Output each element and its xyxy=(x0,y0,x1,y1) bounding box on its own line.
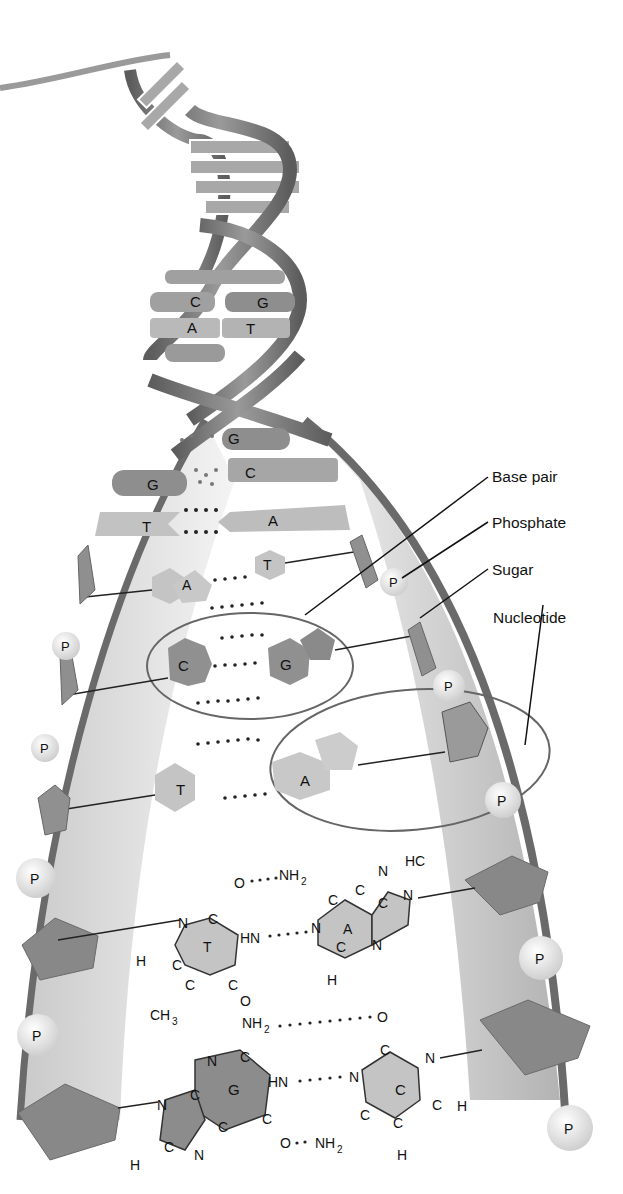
phosphate-symbol: P xyxy=(389,575,398,590)
svg-text:H: H xyxy=(397,1147,407,1163)
ladder-base-a2: A xyxy=(300,772,310,789)
svg-text:C: C xyxy=(172,957,182,973)
label-base-pair: Base pair xyxy=(492,468,557,486)
ladder-base-g: G xyxy=(280,656,292,673)
svg-text:N: N xyxy=(372,937,382,953)
svg-text:C: C xyxy=(355,882,365,898)
svg-text:C: C xyxy=(262,1111,272,1127)
svg-text:C: C xyxy=(228,977,238,993)
svg-text:2: 2 xyxy=(301,876,307,887)
unwind-base-g-right: G xyxy=(228,430,240,447)
svg-text:O: O xyxy=(240,993,251,1009)
svg-text:N: N xyxy=(349,1069,359,1085)
dna-structure-diagram: C G A T G G C T A A T xyxy=(0,0,623,1194)
svg-text:HN: HN xyxy=(268,1074,288,1090)
label-phosphate: Phosphate xyxy=(492,514,566,532)
svg-text:2: 2 xyxy=(337,1144,343,1155)
phosphate-symbol: P xyxy=(32,1028,41,1044)
svg-text:N: N xyxy=(425,1050,435,1066)
svg-text:HC: HC xyxy=(405,853,425,869)
svg-text:H: H xyxy=(136,953,146,969)
svg-text:N: N xyxy=(311,920,321,936)
svg-text:N: N xyxy=(403,887,413,903)
ladder-base-c: C xyxy=(178,657,189,674)
svg-text:C: C xyxy=(208,911,218,927)
svg-text:C: C xyxy=(393,1115,403,1131)
svg-text:3: 3 xyxy=(172,1016,178,1027)
helix-base-g: G xyxy=(257,294,269,311)
svg-text:CH: CH xyxy=(150,1007,170,1023)
chem-a-label: A xyxy=(343,921,353,937)
svg-text:N: N xyxy=(194,1147,204,1163)
chem-c-label: C xyxy=(395,1081,406,1098)
svg-text:C: C xyxy=(378,895,388,911)
chem-g-label: G xyxy=(228,1081,240,1098)
helix-base-a: A xyxy=(187,319,197,336)
phosphate-symbol: P xyxy=(497,793,506,809)
svg-text:H: H xyxy=(457,1098,467,1114)
svg-text:O: O xyxy=(280,1135,291,1151)
unwind-base-a-right: A xyxy=(268,512,278,529)
svg-text:C: C xyxy=(432,1097,442,1113)
ladder-base-t2: T xyxy=(176,781,185,798)
helix-base-c: C xyxy=(190,293,201,310)
helix-base-t: T xyxy=(246,320,255,337)
svg-text:NH: NH xyxy=(242,1015,262,1031)
svg-text:NH: NH xyxy=(279,867,299,883)
double-helix: C G A T xyxy=(0,55,330,455)
svg-text:C: C xyxy=(164,1139,174,1155)
svg-text:H: H xyxy=(327,972,337,988)
phosphate-symbol: P xyxy=(564,1121,573,1137)
svg-text:2: 2 xyxy=(264,1024,270,1035)
label-nucleotide: Nucleotide xyxy=(493,609,566,627)
ladder-base-t1: T xyxy=(263,557,272,573)
svg-text:C: C xyxy=(336,939,346,955)
unwind-base-t-left: T xyxy=(142,518,151,535)
label-sugar: Sugar xyxy=(492,561,533,579)
unwind-base-g-left: G xyxy=(147,476,159,493)
ladder-base-a1: A xyxy=(182,577,192,593)
phosphate-symbol: P xyxy=(40,741,49,756)
phosphate-symbol: P xyxy=(61,639,70,654)
svg-text:C: C xyxy=(240,1049,250,1065)
svg-text:N: N xyxy=(157,1097,167,1113)
svg-text:C: C xyxy=(380,1042,390,1058)
svg-text:N: N xyxy=(207,1053,217,1069)
svg-text:C: C xyxy=(218,1119,228,1135)
svg-text:O: O xyxy=(234,875,245,891)
chem-t-label: T xyxy=(203,939,212,955)
chem-g-c-pair: G C NH2 O NC HN NC CC CN HO NH2 NC NC CC… xyxy=(118,1009,482,1173)
phosphate-symbol: P xyxy=(30,871,39,887)
phosphate-symbol: P xyxy=(444,679,453,694)
svg-text:H: H xyxy=(130,1157,140,1173)
svg-text:C: C xyxy=(185,977,195,993)
svg-text:C: C xyxy=(328,892,338,908)
svg-text:C: C xyxy=(190,1087,200,1103)
svg-text:NH: NH xyxy=(315,1135,335,1151)
svg-text:N: N xyxy=(378,863,388,879)
svg-text:C: C xyxy=(360,1107,370,1123)
svg-text:O: O xyxy=(377,1009,388,1025)
phosphate-symbol: P xyxy=(535,951,544,967)
unwind-base-c-right: C xyxy=(245,464,256,481)
svg-text:HN: HN xyxy=(240,930,260,946)
svg-text:N: N xyxy=(178,915,188,931)
